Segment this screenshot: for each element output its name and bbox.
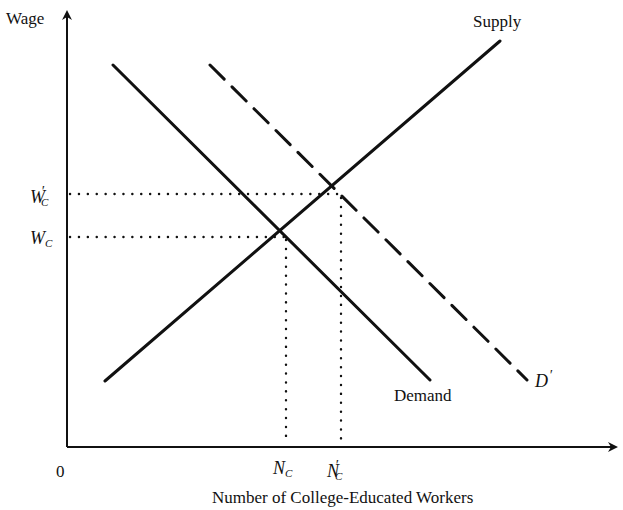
quantity-letter: N	[273, 458, 285, 478]
quantity-subscript: C	[335, 470, 342, 482]
wage-subscript: C	[41, 196, 48, 208]
wage-label-wc: WC	[30, 229, 52, 249]
x-axis-label: Number of College-Educated Workers	[212, 489, 473, 506]
shifted-demand-curve	[210, 65, 527, 380]
supply-curve	[105, 41, 500, 381]
shifted-demand-prime: ′	[549, 368, 552, 383]
quantity-subscript: C	[285, 467, 292, 479]
quantity-label-nc-prime: N′C	[327, 459, 342, 482]
wage-label-wc-prime: W′C	[30, 185, 48, 208]
wage-subscript: C	[45, 237, 52, 249]
supply-demand-diagram	[0, 0, 623, 510]
demand-label: Demand	[394, 387, 452, 404]
shifted-demand-label: D′	[535, 369, 552, 390]
supply-label: Supply	[473, 13, 521, 30]
shifted-demand-letter: D	[535, 371, 548, 391]
origin-label: 0	[56, 463, 65, 480]
y-axis-label: Wage	[6, 10, 44, 27]
wage-letter: W	[30, 228, 45, 248]
quantity-label-nc: NC	[273, 459, 292, 479]
